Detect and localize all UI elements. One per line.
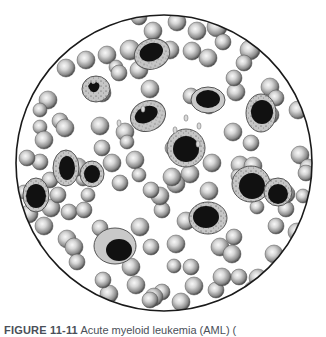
red-blood-cell xyxy=(226,70,242,86)
platelet xyxy=(197,123,201,129)
red-blood-cell xyxy=(91,117,109,135)
red-blood-cell xyxy=(65,238,83,256)
red-blood-cell xyxy=(35,217,53,235)
red-blood-cell xyxy=(27,238,41,252)
red-blood-cell xyxy=(77,51,95,69)
figure-label: FIGURE 11-11 xyxy=(4,324,78,336)
leukemic-blast-cell xyxy=(189,202,227,234)
red-blood-cell xyxy=(143,182,159,198)
red-blood-cell xyxy=(183,42,201,60)
red-blood-cell xyxy=(126,151,144,169)
platelet xyxy=(196,141,200,147)
nucleus xyxy=(106,239,132,261)
red-blood-cell xyxy=(35,131,53,149)
red-blood-cell xyxy=(19,150,35,166)
red-blood-cell xyxy=(268,218,284,234)
red-blood-cell xyxy=(56,119,74,137)
red-blood-cell xyxy=(172,293,190,311)
red-blood-cell xyxy=(226,229,242,245)
red-blood-cell xyxy=(231,269,247,285)
red-blood-cell xyxy=(215,34,231,50)
red-blood-cell xyxy=(33,103,47,117)
red-blood-cell xyxy=(61,204,77,220)
platelet xyxy=(117,120,121,126)
platelet xyxy=(184,115,188,121)
red-blood-cell xyxy=(213,268,231,286)
red-blood-cell xyxy=(203,154,221,172)
red-blood-cell xyxy=(223,245,241,263)
nucleus xyxy=(59,156,75,180)
red-blood-cell xyxy=(132,168,146,182)
red-blood-cell xyxy=(141,80,159,98)
leukemic-blast-cell xyxy=(167,129,205,167)
red-blood-cell xyxy=(244,281,262,299)
red-blood-cell xyxy=(243,135,259,151)
platelet xyxy=(141,106,145,112)
red-blood-cell xyxy=(81,188,95,202)
nucleus xyxy=(268,184,288,204)
leukemic-blast-cell xyxy=(94,228,136,264)
red-blood-cell xyxy=(264,281,278,295)
red-blood-cell xyxy=(183,259,199,275)
red-blood-cell xyxy=(131,218,149,236)
leukemic-blast-cell xyxy=(246,94,276,132)
red-blood-cell xyxy=(188,22,206,40)
red-blood-cell xyxy=(163,168,181,186)
caption-text: Acute myeloid leukemia (AML) ( xyxy=(78,324,236,336)
red-blood-cell xyxy=(76,202,92,218)
red-blood-cell xyxy=(127,276,145,294)
red-blood-cell xyxy=(94,140,110,156)
red-blood-cell xyxy=(167,235,185,253)
red-blood-cell xyxy=(69,254,85,270)
red-blood-cell xyxy=(185,277,203,295)
figure-caption: FIGURE 11-11 Acute myeloid leukemia (AML… xyxy=(4,323,326,337)
red-blood-cell xyxy=(50,187,66,203)
red-blood-cell xyxy=(57,59,75,77)
red-blood-cell xyxy=(200,182,218,200)
nucleus xyxy=(173,136,199,162)
leukemic-blast-cell xyxy=(53,150,79,186)
red-blood-cell xyxy=(120,135,134,149)
red-blood-cell xyxy=(144,22,162,40)
nucleus xyxy=(196,90,220,108)
red-blood-cell xyxy=(111,65,127,81)
red-blood-cell xyxy=(236,55,252,71)
leukemic-blast-cell xyxy=(191,87,225,113)
red-blood-cell xyxy=(224,123,242,141)
nucleus xyxy=(193,206,219,228)
red-blood-cell xyxy=(95,272,111,288)
leukemic-blast-cell xyxy=(82,76,110,102)
red-blood-cell xyxy=(103,154,121,172)
platelet xyxy=(173,127,177,133)
nucleus xyxy=(84,165,100,183)
leukemic-blast-cell xyxy=(80,161,104,187)
nucleus xyxy=(239,173,265,199)
red-blood-cell xyxy=(14,225,28,239)
red-blood-cell xyxy=(143,239,159,255)
red-blood-cell xyxy=(112,175,128,191)
nucleus xyxy=(26,184,46,208)
red-blood-cell xyxy=(142,292,158,308)
nucleus xyxy=(251,100,273,124)
red-blood-cell xyxy=(199,49,217,67)
leukemic-blast-cell xyxy=(264,178,292,206)
red-blood-cell xyxy=(167,259,181,273)
leukemic-blast-cell xyxy=(23,178,49,212)
blood-smear-illustration xyxy=(0,0,326,318)
